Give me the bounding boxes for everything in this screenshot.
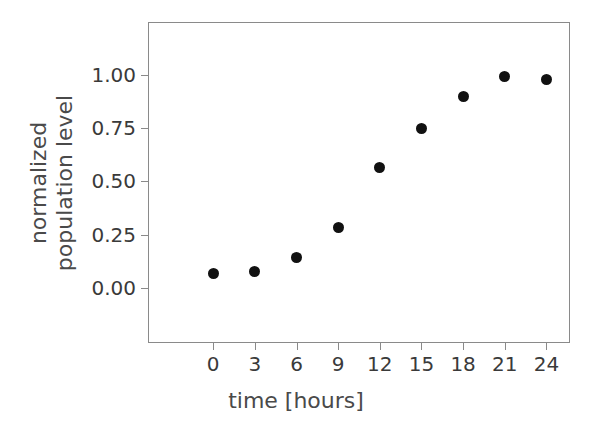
x-axis-tick-label: 24	[534, 352, 559, 376]
y-axis-tick	[141, 128, 148, 129]
y-axis-tick-label: 0.50	[56, 169, 136, 193]
x-axis-tick-label: 15	[409, 352, 434, 376]
data-point	[249, 266, 260, 277]
y-axis-tick	[141, 235, 148, 236]
y-axis-tick	[141, 75, 148, 76]
y-axis-tick-label: 0.00	[56, 276, 136, 300]
data-point	[499, 71, 510, 82]
data-point	[333, 222, 344, 233]
x-axis-tick-label: 9	[332, 352, 345, 376]
data-point	[458, 91, 469, 102]
x-axis-tick	[463, 343, 464, 350]
x-axis-tick	[297, 343, 298, 350]
y-axis-tick-label: 0.25	[56, 223, 136, 247]
plot-area	[148, 22, 570, 343]
x-axis-tick	[255, 343, 256, 350]
y-axis-tick-label: 1.00	[56, 63, 136, 87]
x-axis-tick-label: 6	[290, 352, 303, 376]
y-axis-label-line-1: normalized	[26, 94, 52, 270]
x-axis-tick	[338, 343, 339, 350]
x-axis-tick	[421, 343, 422, 350]
data-point	[416, 123, 427, 134]
y-axis-tick-label: 0.75	[56, 116, 136, 140]
x-axis-tick-label: 21	[492, 352, 517, 376]
x-axis-tick-label: 0	[207, 352, 220, 376]
x-axis-tick	[505, 343, 506, 350]
x-axis-tick-label: 3	[249, 352, 262, 376]
x-axis-tick	[213, 343, 214, 350]
y-axis-tick	[141, 288, 148, 289]
x-axis-tick	[380, 343, 381, 350]
x-axis-tick-label: 18	[450, 352, 475, 376]
chart-figure: normalized population level 0.000.250.50…	[0, 0, 592, 431]
y-axis-tick	[141, 181, 148, 182]
data-point	[541, 74, 552, 85]
x-axis-tick-label: 12	[367, 352, 392, 376]
x-axis-label: time [hours]	[0, 388, 592, 413]
x-axis-tick	[546, 343, 547, 350]
